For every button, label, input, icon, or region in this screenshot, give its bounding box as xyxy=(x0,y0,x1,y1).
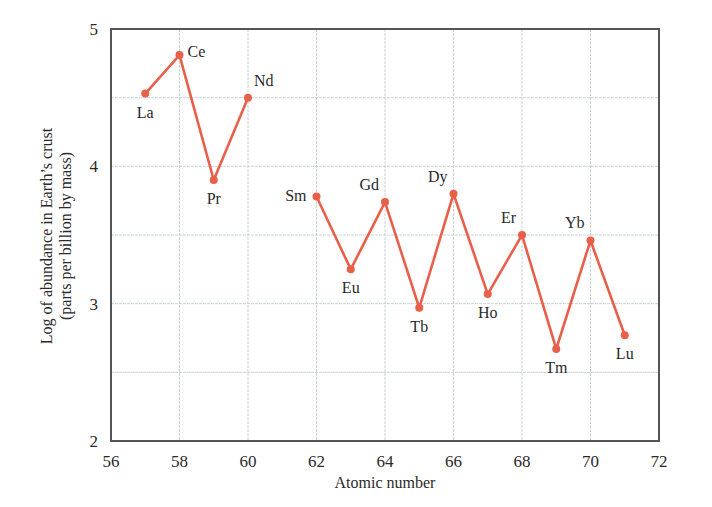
data-point-tb xyxy=(415,304,423,312)
point-label-ce: Ce xyxy=(188,43,206,60)
point-label-eu: Eu xyxy=(342,279,360,296)
point-label-ho: Ho xyxy=(478,304,498,321)
x-tick-label: 60 xyxy=(240,452,257,471)
y-tick-label: 3 xyxy=(90,295,99,314)
y-tick-label: 5 xyxy=(90,20,99,39)
x-tick-label: 58 xyxy=(171,452,188,471)
point-label-sm: Sm xyxy=(285,187,307,204)
x-axis-ticks: 565860626466687072 xyxy=(103,452,668,471)
data-point-sm xyxy=(313,193,321,201)
abundance-line-chart: 565860626466687072 2345 LaCePrNdSmEuGdTb… xyxy=(0,0,712,507)
point-label-tb: Tb xyxy=(410,318,428,335)
x-tick-label: 64 xyxy=(377,452,395,471)
series-line xyxy=(145,55,248,180)
data-point-yb xyxy=(587,236,595,244)
data-point-dy xyxy=(450,190,458,198)
point-label-nd: Nd xyxy=(254,72,274,89)
grid-lines xyxy=(111,29,659,441)
x-tick-label: 68 xyxy=(514,452,531,471)
x-tick-label: 72 xyxy=(651,452,668,471)
data-point-ho xyxy=(484,290,492,298)
data-point-la xyxy=(141,90,149,98)
x-tick-label: 70 xyxy=(582,452,599,471)
point-label-lu: Lu xyxy=(616,345,634,362)
point-label-la: La xyxy=(137,104,154,121)
point-label-tm: Tm xyxy=(545,359,568,376)
y-axis-title: Log of abundance in Earth’s crust xyxy=(38,127,56,344)
y-tick-label: 4 xyxy=(90,157,99,176)
point-label-yb: Yb xyxy=(565,214,585,231)
y-axis-ticks: 2345 xyxy=(90,20,99,451)
data-point-eu xyxy=(347,265,355,273)
data-point-pr xyxy=(210,176,218,184)
y-axis-subtitle: (parts per billion by mass) xyxy=(57,152,75,320)
point-label-pr: Pr xyxy=(207,190,222,207)
data-point-er xyxy=(518,231,526,239)
point-label-er: Er xyxy=(501,209,517,226)
data-point-gd xyxy=(381,198,389,206)
point-label-dy: Dy xyxy=(428,168,448,186)
y-tick-label: 2 xyxy=(90,432,99,451)
y-axis-title-group: Log of abundance in Earth’s crust (parts… xyxy=(38,127,75,344)
data-point-ce xyxy=(176,51,184,59)
point-label-gd: Gd xyxy=(359,176,379,193)
x-tick-label: 66 xyxy=(445,452,462,471)
x-axis-title: Atomic number xyxy=(335,474,437,491)
data-point-lu xyxy=(621,331,629,339)
data-point-nd xyxy=(244,94,252,102)
x-tick-label: 56 xyxy=(103,452,120,471)
data-point-tm xyxy=(552,345,560,353)
x-tick-label: 62 xyxy=(308,452,325,471)
